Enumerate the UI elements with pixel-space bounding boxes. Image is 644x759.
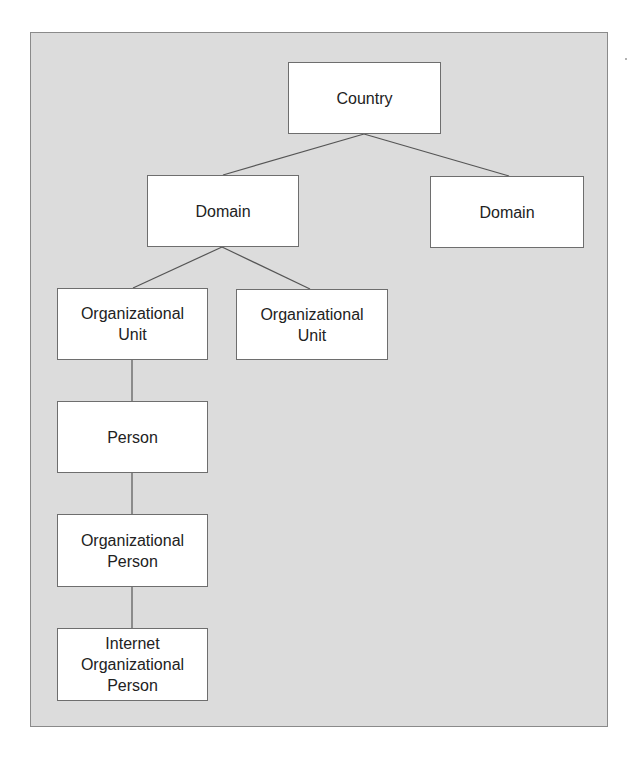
node-label: Internet Organizational Person — [81, 633, 184, 696]
diagram-frame — [30, 32, 608, 727]
node-label: Organizational Person — [81, 530, 184, 572]
node-organizational-person: Organizational Person — [57, 514, 208, 587]
scan-artifact-dot — [625, 58, 627, 60]
node-ou-left: Organizational Unit — [57, 288, 208, 360]
node-label: Domain — [479, 202, 534, 223]
node-label: Organizational Unit — [260, 304, 363, 346]
node-domain-right: Domain — [430, 176, 584, 248]
node-country: Country — [288, 62, 441, 134]
node-internet-organizational-person: Internet Organizational Person — [57, 628, 208, 701]
node-ou-right: Organizational Unit — [236, 289, 388, 360]
node-label: Organizational Unit — [81, 303, 184, 345]
node-label: Person — [107, 427, 158, 448]
node-domain-left: Domain — [147, 175, 299, 247]
node-label: Domain — [195, 201, 250, 222]
node-person: Person — [57, 401, 208, 473]
node-label: Country — [336, 88, 392, 109]
